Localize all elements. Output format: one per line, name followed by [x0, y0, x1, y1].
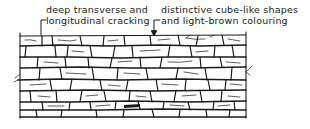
leader-left: [41, 20, 46, 35]
leader-right: [152, 20, 161, 36]
dark-crack: [124, 104, 140, 108]
joints-row6: [30, 90, 222, 102]
joints-row2: [25, 45, 234, 57]
cracked-wall-drawing: [0, 0, 310, 129]
joints-row5: [50, 79, 226, 91]
joints-row1: [42, 35, 224, 46]
joints-row3: [37, 57, 222, 68]
